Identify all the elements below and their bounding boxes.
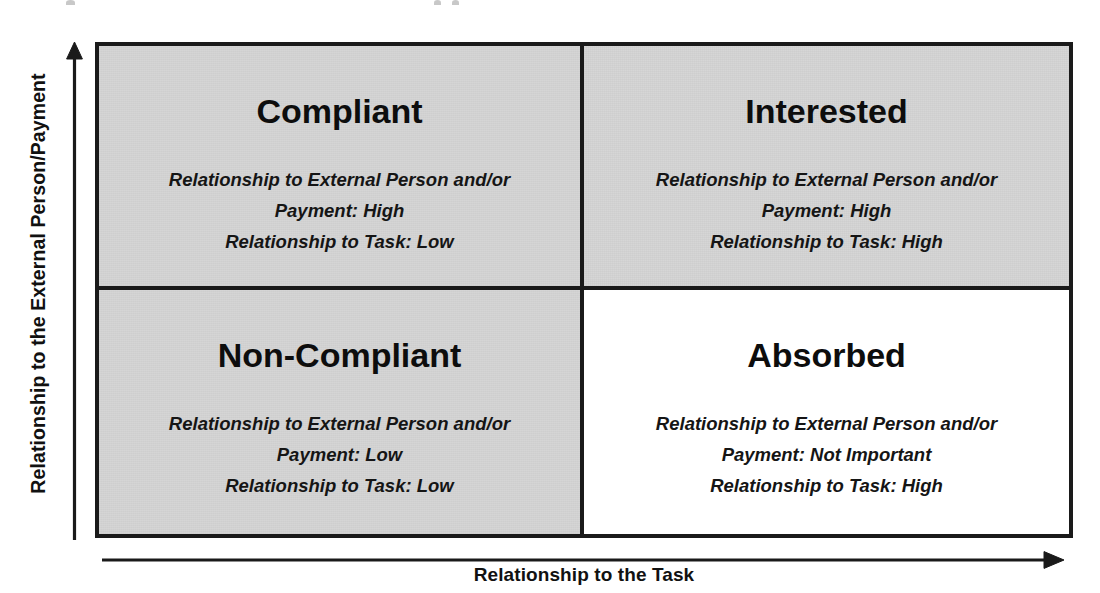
- quadrant-description-line: Relationship to Task: Low: [169, 226, 510, 257]
- quadrant-title: Non-Compliant: [218, 338, 462, 374]
- quadrant-matrix: Compliant Relationship to External Perso…: [95, 42, 1073, 538]
- quadrant-description-line: Relationship to Task: Low: [169, 470, 510, 501]
- quadrant-compliant[interactable]: Compliant Relationship to External Perso…: [99, 46, 584, 290]
- quadrant-description-line: Relationship to External Person and/or: [169, 164, 510, 195]
- quadrant-description-line: Relationship to Task: High: [656, 470, 997, 501]
- quadrant-absorbed[interactable]: Absorbed Relationship to External Person…: [584, 290, 1069, 534]
- quadrant-description: Relationship to External Person and/or P…: [169, 164, 510, 257]
- quadrant-description-line: Payment: High: [656, 195, 997, 226]
- quadrant-description-line: Relationship to External Person and/or: [656, 164, 997, 195]
- quadrant-description-line: Relationship to External Person and/or: [169, 408, 510, 439]
- scan-artifact: [434, 0, 441, 5]
- quadrant-description-line: Payment: Low: [169, 439, 510, 470]
- quadrant-description-line: Relationship to External Person and/or: [656, 408, 997, 439]
- scan-artifact: [452, 0, 459, 5]
- quadrant-interested[interactable]: Interested Relationship to External Pers…: [584, 46, 1069, 290]
- quadrant-description: Relationship to External Person and/or P…: [656, 408, 997, 501]
- quadrant-description: Relationship to External Person and/or P…: [656, 164, 997, 257]
- quadrant-description-line: Payment: High: [169, 195, 510, 226]
- quadrant-title: Compliant: [256, 94, 422, 130]
- quadrant-description-line: Payment: Not Important: [656, 439, 997, 470]
- quadrant-non-compliant[interactable]: Non-Compliant Relationship to External P…: [99, 290, 584, 534]
- y-axis-label: Relationship to the External Person/Paym…: [27, 24, 50, 544]
- scan-artifact: [66, 0, 75, 5]
- x-axis-label: Relationship to the Task: [95, 564, 1073, 586]
- arrow-up-icon: [67, 42, 83, 59]
- diagram-page: Relationship to the External Person/Paym…: [0, 0, 1100, 593]
- quadrant-title: Absorbed: [747, 338, 906, 374]
- quadrant-description: Relationship to External Person and/or P…: [169, 408, 510, 501]
- y-axis-arrow: [64, 40, 86, 542]
- quadrant-description-line: Relationship to Task: High: [656, 226, 997, 257]
- quadrant-title: Interested: [745, 94, 908, 130]
